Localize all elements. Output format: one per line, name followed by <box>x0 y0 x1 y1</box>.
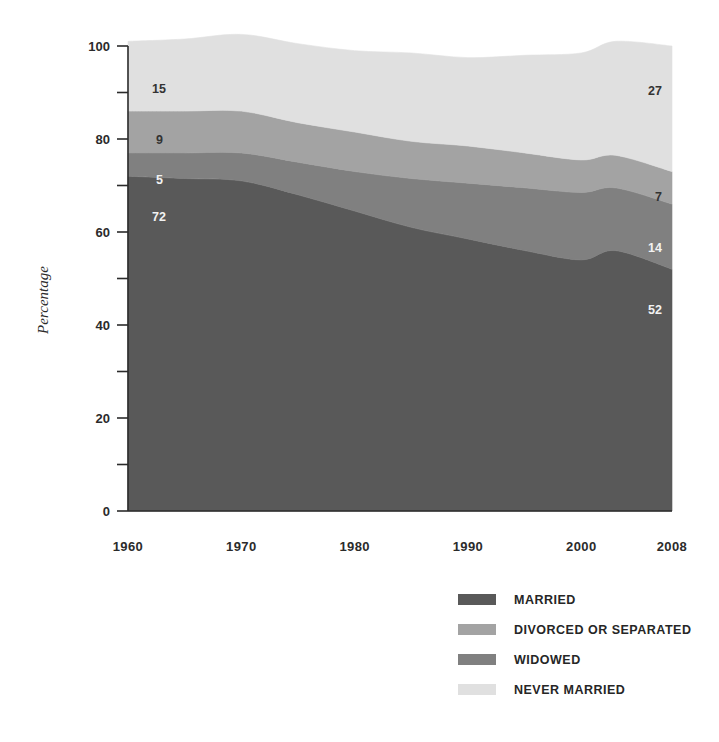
value-label-left-widowed: 5 <box>156 173 163 187</box>
legend-item-never-married[interactable]: NEVER MARRIED <box>458 683 625 697</box>
x-tick-label: 1980 <box>339 539 370 554</box>
value-label-right-never-married: 27 <box>648 84 662 98</box>
legend-swatch <box>458 684 496 695</box>
legend-item-divorced-or-separated[interactable]: DIVORCED OR SEPARATED <box>458 623 691 637</box>
y-tick-label: 100 <box>88 39 110 54</box>
x-tick-label: 1990 <box>453 539 484 554</box>
y-axis-title: Percentage <box>35 266 51 335</box>
value-label-right-married: 52 <box>648 303 662 317</box>
y-tick-label: 20 <box>96 411 110 426</box>
y-tick-label: 0 <box>103 504 110 519</box>
x-tick-label: 2000 <box>566 539 597 554</box>
value-label-left-divorced-or-separated: 9 <box>156 133 163 147</box>
x-tick-label: 1960 <box>113 539 144 554</box>
legend-swatch <box>458 654 496 665</box>
y-tick-label: 80 <box>96 132 110 147</box>
stacked-area-chart: 020406080100 Percentage 1960197019801990… <box>0 0 719 742</box>
x-tick-label: 2008 <box>657 539 688 554</box>
legend-item-married[interactable]: MARRIED <box>458 593 576 607</box>
legend-label: NEVER MARRIED <box>514 683 625 697</box>
y-tick-label: 40 <box>96 318 110 333</box>
legend-swatch <box>458 624 496 635</box>
value-label-right-widowed: 14 <box>648 241 662 255</box>
legend-item-widowed[interactable]: WIDOWED <box>458 653 581 667</box>
legend-label: MARRIED <box>514 593 576 607</box>
x-tick-label: 1970 <box>226 539 257 554</box>
legend-label: DIVORCED OR SEPARATED <box>514 623 691 637</box>
value-label-left-never-married: 15 <box>152 82 166 96</box>
value-label-left-married: 72 <box>152 210 166 224</box>
legend-swatch <box>458 594 496 605</box>
y-tick-label: 60 <box>96 225 110 240</box>
y-axis-title-text: Percentage <box>35 266 51 335</box>
legend-label: WIDOWED <box>514 653 581 667</box>
area-bands-group <box>128 34 672 511</box>
value-label-right-divorced-or-separated: 7 <box>655 190 662 204</box>
